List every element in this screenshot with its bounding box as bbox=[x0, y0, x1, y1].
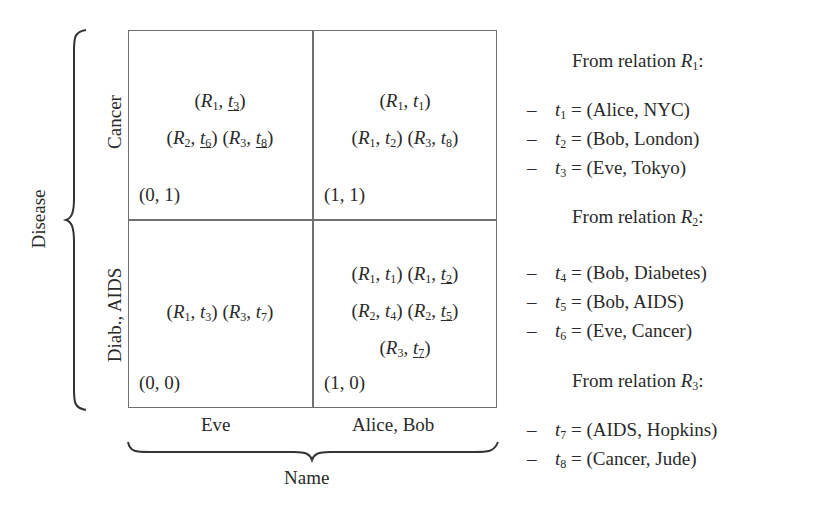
cell-bottom-right: (R1, t1) (R1, t2) (R2, t4) (R2, t5) (R3,… bbox=[313, 258, 497, 369]
cell-coordinate: (1, 0) bbox=[324, 372, 365, 394]
tuple-t1: –t1 = (Alice, NYC) bbox=[527, 99, 690, 123]
tuple-t5: –t5 = (Bob, AIDS) bbox=[527, 291, 684, 315]
relation-header-r3: From relation R3: bbox=[572, 370, 704, 394]
cell-line: (R1, t1) bbox=[313, 85, 497, 122]
tuple-t4: –t4 = (Bob, Diabetes) bbox=[527, 262, 707, 286]
left-brace-icon bbox=[60, 28, 90, 412]
grid-divider-horizontal bbox=[128, 219, 497, 221]
y-category-cancer: Cancer bbox=[104, 62, 128, 182]
tuple-t2: –t2 = (Bob, London) bbox=[527, 128, 699, 152]
cell-coordinate: (0, 0) bbox=[139, 372, 180, 394]
cell-top-right: (R1, t1) (R1, t2) (R3, t8) bbox=[313, 85, 497, 159]
cell-line: (R1, t3) bbox=[128, 85, 312, 122]
cell-top-left: (R1, t3) (R2, t6) (R3, t8) bbox=[128, 85, 312, 159]
relation-header-r2: From relation R2: bbox=[572, 206, 704, 230]
cell-line: (R1, t3) (R3, t7) bbox=[128, 296, 312, 333]
bottom-brace-icon bbox=[126, 438, 500, 464]
y-axis-label: Disease bbox=[28, 159, 52, 279]
tuple-t8: –t8 = (Cancer, Jude) bbox=[527, 448, 697, 472]
relation-header-r1: From relation R1: bbox=[572, 50, 704, 74]
tuple-t7: –t7 = (AIDS, Hopkins) bbox=[527, 419, 717, 443]
cell-bottom-left: (R1, t3) (R3, t7) bbox=[128, 296, 312, 333]
cell-line: (R2, t6) (R3, t8) bbox=[128, 122, 312, 159]
x-category-eve: Eve bbox=[201, 414, 231, 436]
cell-coordinate: (1, 1) bbox=[324, 184, 365, 206]
tuple-t6: –t6 = (Eve, Cancer) bbox=[527, 320, 692, 344]
x-category-alice-bob: Alice, Bob bbox=[352, 414, 434, 436]
cell-line: (R1, t2) (R3, t8) bbox=[313, 122, 497, 159]
cell-line: (R3, t7) bbox=[313, 332, 497, 369]
tuple-t3: –t3 = (Eve, Tokyo) bbox=[527, 157, 686, 181]
cell-coordinate: (0, 1) bbox=[139, 184, 180, 206]
cell-line: (R1, t1) (R1, t2) bbox=[313, 258, 497, 295]
x-axis-label: Name bbox=[284, 467, 329, 489]
cell-line: (R2, t4) (R2, t5) bbox=[313, 295, 497, 332]
y-category-diab-aids: Diab., AIDS bbox=[104, 255, 128, 375]
